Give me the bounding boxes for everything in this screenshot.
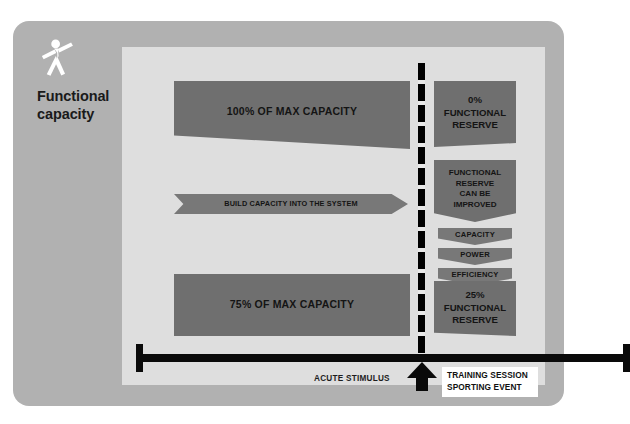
person-arms-raised-icon	[39, 38, 77, 78]
time-axis-tick-right	[623, 344, 630, 372]
improve-line4: IMPROVED	[434, 200, 516, 211]
time-axis-line	[141, 354, 629, 362]
reserve-zero-line3: RESERVE	[434, 119, 516, 132]
improve-line2: RESERVE	[434, 179, 516, 190]
event-callout: TRAINING SESSION SPORTING EVENT	[442, 367, 538, 397]
reserve-zero-line1: 0%	[434, 94, 516, 107]
build-capacity-arrow-label: BUILD CAPACITY INTO THE SYSTEM	[174, 199, 408, 208]
chevron-capacity-label: CAPACITY	[438, 230, 512, 239]
improve-line1: FUNCTIONAL	[434, 168, 516, 179]
reserve-25-line2: FUNCTIONAL	[434, 302, 516, 315]
stimulus-dashed-divider	[418, 63, 425, 359]
reserve-25-line1: 25%	[434, 289, 516, 302]
box-functional-reserve-improve: FUNCTIONAL RESERVE CAN BE IMPROVED	[434, 160, 516, 222]
arrow-up-icon	[407, 362, 437, 391]
chevron-power-label: POWER	[438, 250, 512, 259]
event-line1: TRAINING SESSION	[447, 370, 534, 382]
chevron-capacity: CAPACITY	[438, 228, 512, 245]
brand-title-line1: Functional	[37, 87, 123, 105]
bar-max-capacity-75: 75% OF MAX CAPACITY	[174, 274, 410, 336]
box-functional-reserve-0: 0% FUNCTIONAL RESERVE	[434, 81, 516, 147]
brand-block: Functional capacity	[37, 38, 123, 123]
reserve-zero-line2: FUNCTIONAL	[434, 107, 516, 120]
diagram-card: Functional capacity 100% OF MAX CAPACITY…	[13, 21, 564, 406]
box-functional-reserve-25: 25% FUNCTIONAL RESERVE	[434, 281, 516, 336]
chevron-efficiency-label: EFFICIENCY	[438, 270, 512, 279]
bar-max-capacity-75-label: 75% OF MAX CAPACITY	[174, 298, 410, 310]
time-axis-tick-left	[136, 344, 143, 372]
diagram-panel: 100% OF MAX CAPACITY BUILD CAPACITY INTO…	[122, 47, 545, 385]
box-functional-reserve-0-label: 0% FUNCTIONAL RESERVE	[434, 94, 516, 132]
bar-max-capacity-100: 100% OF MAX CAPACITY	[174, 81, 410, 149]
acute-stimulus-label: ACUTE STIMULUS	[314, 374, 390, 383]
chevron-power: POWER	[438, 248, 512, 265]
build-capacity-arrow: BUILD CAPACITY INTO THE SYSTEM	[174, 194, 408, 214]
box-functional-reserve-25-label: 25% FUNCTIONAL RESERVE	[434, 289, 516, 327]
page-title: Functional capacity	[37, 87, 123, 123]
reserve-25-line3: RESERVE	[434, 314, 516, 327]
brand-title-line2: capacity	[37, 105, 123, 123]
event-line2: SPORTING EVENT	[447, 382, 534, 394]
bar-max-capacity-100-label: 100% OF MAX CAPACITY	[174, 105, 410, 117]
box-functional-reserve-improve-label: FUNCTIONAL RESERVE CAN BE IMPROVED	[434, 168, 516, 211]
improve-line3: CAN BE	[434, 189, 516, 200]
